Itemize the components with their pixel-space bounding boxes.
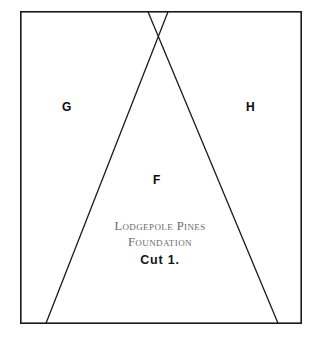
piece-label-g: G [62,101,72,113]
right-seam-line [148,12,278,323]
piece-label-h: H [246,101,255,113]
cut-number-label: Cut 1. [60,252,260,269]
title-block: Lodgepole Pines Foundation Cut 1. [60,218,260,269]
pattern-drawing [0,0,323,345]
piece-label-f: F [153,174,161,186]
pattern-title-line-2: Foundation [60,234,260,250]
pattern-sheet: G H F Lodgepole Pines Foundation Cut 1. [0,0,323,345]
left-seam-line [46,12,168,323]
pattern-title-line-1: Lodgepole Pines [60,218,260,234]
